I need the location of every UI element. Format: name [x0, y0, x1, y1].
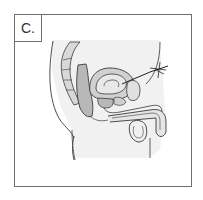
- pubic-bone: [127, 80, 140, 100]
- prostate: [98, 98, 113, 108]
- panel-label: C.: [21, 20, 35, 36]
- panel-label-box: C.: [14, 14, 42, 42]
